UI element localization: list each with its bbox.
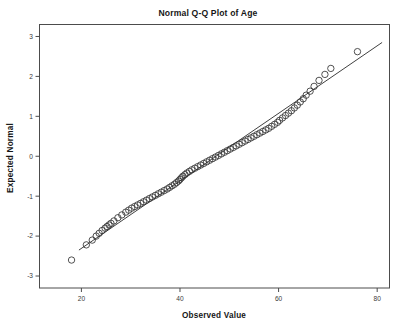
y-tick-label: 0 — [29, 153, 33, 160]
x-tick-label: 80 — [374, 295, 382, 302]
y-tick-label: -1 — [27, 193, 33, 200]
qq-plot-figure: Normal Q-Q Plot of Age 3210-1-2-3 204060… — [0, 0, 417, 328]
y-tick-label: -3 — [27, 272, 33, 279]
page-title: Normal Q-Q Plot of Age — [159, 8, 258, 18]
qq-plot-canvas: Normal Q-Q Plot of Age 3210-1-2-3 204060… — [0, 0, 417, 328]
x-axis-title: Observed Value — [182, 311, 246, 320]
y-tick-label: 1 — [29, 113, 33, 120]
x-tick-label: 60 — [275, 295, 283, 302]
x-tick-label: 40 — [176, 295, 184, 302]
x-tick-label: 20 — [78, 295, 86, 302]
y-tick-label: 3 — [29, 33, 33, 40]
y-axis-title: Expected Normal — [6, 123, 15, 193]
y-tick-label: 2 — [29, 73, 33, 80]
y-tick-label: -2 — [27, 232, 33, 239]
